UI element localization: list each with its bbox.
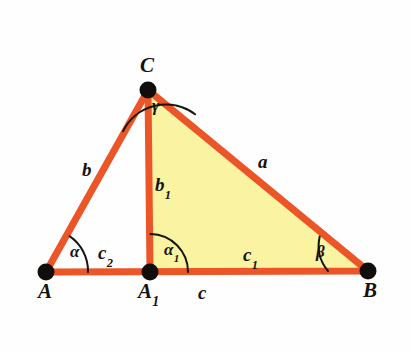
side-label-c2: c2 (98, 243, 113, 266)
vertex-label-C: C (140, 55, 154, 76)
angle-label-beta-text: β (316, 242, 325, 261)
side-label-c: c (198, 283, 206, 302)
side-label-b1-text: b (155, 174, 165, 195)
angle-label-alpha1-subscript: 1 (174, 252, 180, 264)
angle-label-gamma: γ (152, 97, 159, 114)
angle-label-beta: β (316, 243, 325, 260)
side-label-c1-subscript: 1 (252, 258, 258, 272)
vertex-point-A1 (142, 264, 159, 281)
altitude-segment (148, 90, 150, 272)
side-label-a-text: a (258, 151, 268, 172)
geometry-figure: A B C A1 b a c b1 c1 c2 α β γ α1 (0, 0, 411, 352)
vertex-label-A1-text: A (138, 279, 152, 303)
vertex-point-A (38, 264, 55, 281)
angle-label-alpha1: α1 (164, 241, 179, 262)
side-label-c1: c1 (243, 245, 258, 268)
side-label-c-text: c (198, 282, 206, 303)
vertex-label-A1: A1 (138, 281, 159, 306)
side-label-c1-text: c (243, 244, 251, 265)
angle-label-alpha-text: α (70, 242, 79, 261)
side-label-b1: b1 (155, 175, 171, 198)
vertex-label-B: B (363, 280, 377, 301)
side-label-b-text: b (82, 159, 92, 180)
vertex-point-B (360, 263, 377, 280)
side-label-b1-subscript: 1 (165, 188, 171, 202)
side-label-a: a (258, 152, 268, 171)
side-label-c2-text: c (98, 242, 106, 263)
vertex-label-A: A (38, 281, 52, 302)
angle-label-gamma-text: γ (152, 96, 159, 115)
angle-label-alpha1-text: α (164, 240, 173, 259)
vertex-label-A-text: A (38, 279, 52, 303)
vertex-label-B-text: B (363, 278, 377, 302)
side-label-c2-subscript: 2 (107, 256, 113, 270)
angle-label-alpha: α (70, 243, 79, 260)
vertex-label-C-text: C (140, 53, 154, 77)
side-label-b: b (82, 160, 92, 179)
vertex-label-A1-subscript: 1 (152, 294, 159, 309)
